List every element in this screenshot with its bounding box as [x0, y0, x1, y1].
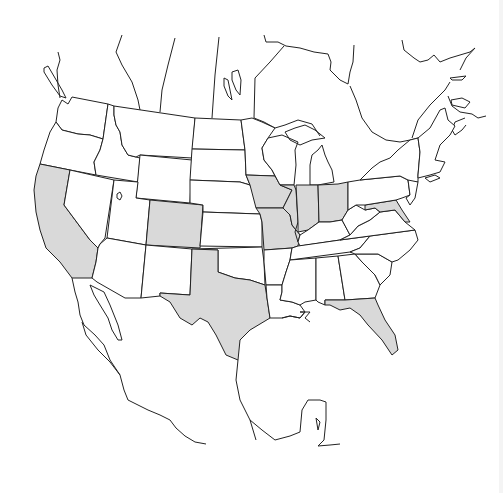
page-edge — [499, 0, 503, 493]
state-michigan[interactable] — [310, 145, 334, 185]
state-ohio[interactable] — [318, 182, 348, 222]
us-map — [0, 0, 503, 493]
state-kansas[interactable] — [200, 212, 262, 247]
state-new-mexico[interactable] — [141, 245, 192, 298]
state-new-york[interactable] — [360, 138, 420, 182]
state-north-dakota[interactable] — [192, 118, 245, 150]
states — [34, 97, 455, 360]
state-wyoming[interactable] — [136, 155, 192, 203]
state-colorado[interactable] — [146, 200, 203, 248]
state-new-england[interactable] — [418, 108, 455, 178]
state-south-dakota[interactable] — [190, 149, 250, 185]
state-florida[interactable] — [325, 298, 398, 355]
state-arizona[interactable] — [92, 238, 146, 298]
state-montana[interactable] — [114, 106, 195, 158]
